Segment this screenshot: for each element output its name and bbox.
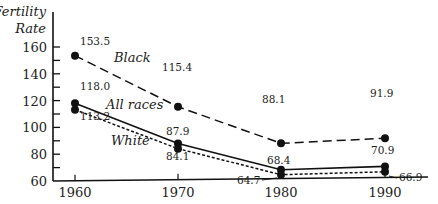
data-value-label: 68.4 (267, 154, 291, 166)
data-value-label: 87.9 (166, 125, 189, 137)
series-label-all-races: All races (105, 97, 164, 112)
series-label-black: Black (113, 50, 151, 65)
x-tick-label: 1970 (161, 185, 194, 200)
data-point (277, 171, 285, 179)
y-tick-label: 60 (30, 174, 47, 189)
data-value-label: 64.7 (237, 174, 260, 186)
x-tick-label: 1960 (58, 185, 91, 200)
series-label-white: White (111, 133, 150, 148)
data-point (381, 134, 389, 142)
y-axis-title-line2: Rate (14, 21, 46, 36)
y-tick-label: 80 (30, 147, 47, 162)
x-tick-label: 1990 (368, 185, 401, 200)
data-point (71, 106, 79, 114)
data-point (174, 103, 182, 111)
y-tick-label: 140 (22, 67, 47, 82)
data-value-label: 70.9 (371, 144, 394, 156)
data-point (277, 139, 285, 147)
data-point (381, 168, 389, 176)
x-tick-label: 1980 (264, 185, 297, 200)
y-tick-label: 120 (22, 94, 47, 109)
data-value-label: 91.9 (370, 87, 393, 99)
data-value-label: 66.9 (399, 171, 422, 183)
data-value-label: 84.1 (166, 150, 189, 162)
data-value-label: 115.4 (162, 61, 192, 73)
series-points (71, 52, 389, 179)
fertility-rate-chart: Fertility Rate 6080100120140160 19601970… (0, 0, 438, 204)
series-lines (75, 56, 385, 175)
y-axis-title-line1: Fertility (0, 4, 47, 19)
x-ticks: 1960197019801990 (58, 171, 401, 200)
y-ticks: 6080100120140160 (22, 40, 60, 189)
y-tick-label: 160 (22, 40, 47, 55)
y-tick-label: 100 (22, 120, 47, 135)
data-value-label: 88.1 (262, 93, 285, 105)
data-value-label: 118.0 (80, 80, 110, 92)
data-point (71, 52, 79, 60)
data-value-label: 153.5 (80, 35, 110, 47)
